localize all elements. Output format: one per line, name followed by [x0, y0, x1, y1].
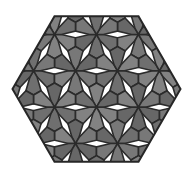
- figure-root: [0, 0, 193, 178]
- tiling-svg: [0, 0, 193, 178]
